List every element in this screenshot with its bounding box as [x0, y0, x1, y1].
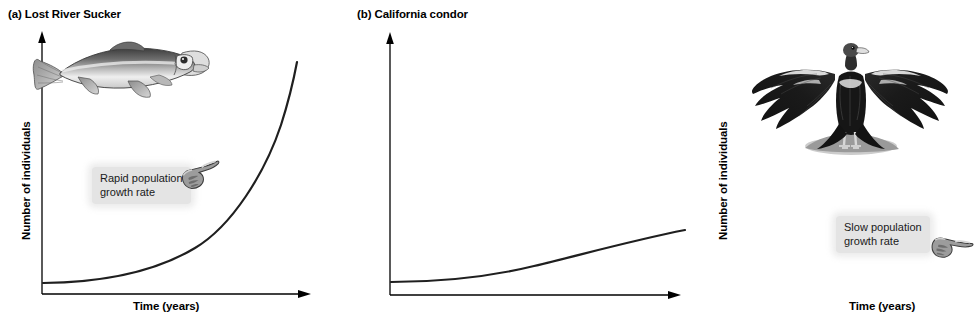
panel-a-callout-line1: Rapid population: [100, 171, 183, 185]
panel-a-x-axis: [42, 290, 311, 298]
panel-b-callout-line2: growth rate: [844, 234, 922, 248]
panel-lost-river-sucker: (a) Lost River Sucker: [0, 0, 349, 322]
panel-a-y-axis-label: Number of individuals: [20, 121, 32, 240]
panel-a-x-axis-label: Time (years): [133, 300, 199, 312]
panel-b-y-axis-label: Number of individuals: [717, 121, 729, 240]
panel-b-plot: [349, 0, 698, 322]
panel-california-condor: (b) California condor: [349, 0, 697, 322]
panel-a-callout: Rapid population growth rate: [92, 167, 191, 204]
california-condor-illustration: [747, 28, 952, 162]
panel-b-y-axis: [386, 32, 394, 295]
panel-b-callout: Slow population growth rate: [836, 216, 930, 253]
pointing-hand-icon: [927, 228, 975, 272]
panel-b-x-axis-label: Time (years): [849, 300, 915, 312]
panel-b-callout-line1: Slow population: [844, 220, 922, 234]
panel-b-axes-and-curve: [349, 0, 697, 322]
panel-a-callout-line2: growth rate: [100, 185, 183, 199]
pointing-hand-icon: [178, 155, 224, 199]
panel-b-x-axis: [390, 291, 681, 299]
lost-river-sucker-illustration: [32, 37, 212, 113]
panel-b-growth-curve: [391, 230, 685, 282]
